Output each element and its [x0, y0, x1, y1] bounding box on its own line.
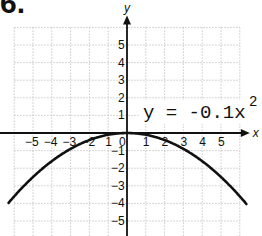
y-axis-arrow-icon: [123, 15, 131, 24]
y-tick-label: 2: [118, 91, 125, 105]
x-tick-label: 5: [218, 135, 225, 149]
x-axis-arrow-icon: [241, 129, 250, 137]
x-tick-label: −4: [44, 135, 58, 149]
y-tick-label: −2: [111, 161, 125, 175]
equation-label: y = -0.1x: [143, 102, 246, 124]
y-tick-label: 3: [118, 73, 125, 87]
x-axis-label: x: [252, 126, 260, 140]
x-tick-label: 1: [143, 135, 150, 149]
y-tick-label: −3: [111, 179, 125, 193]
y-tick-label: −4: [111, 196, 125, 210]
y-tick-label: 1: [118, 108, 125, 122]
x-tick-label: 4: [199, 135, 206, 149]
y-tick-label: 4: [118, 56, 125, 70]
y-axis-label: y: [123, 1, 131, 15]
y-tick-label: −1: [111, 144, 125, 158]
equation-exponent: 2: [249, 94, 257, 110]
parabola-chart: xy−5−4−3−2101234554321−1−2−3−4−5y = -0.1…: [0, 0, 262, 236]
y-tick-label: 5: [118, 38, 125, 52]
x-tick-label: −5: [25, 135, 39, 149]
y-tick-label: −5: [111, 214, 125, 228]
